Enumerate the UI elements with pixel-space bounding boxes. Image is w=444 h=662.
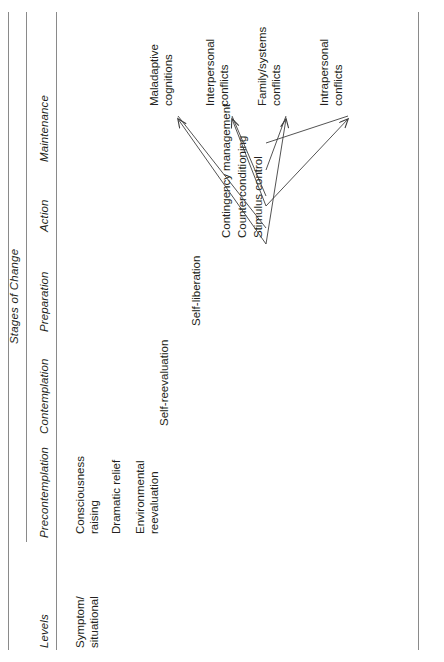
process-self-reevaluation: Self-reevaluation	[158, 340, 172, 426]
process-dramatic-relief: Dramatic relief	[110, 460, 124, 534]
row-label-symptom-situational: Symptom/ situational	[74, 596, 101, 648]
stages-of-change-header: Stages of Change	[8, 249, 22, 344]
arrow-to-intrapersonal-conflicts-a	[266, 119, 348, 206]
column-header-contemplation: Contemplation	[38, 359, 52, 434]
target-interpersonal-conflicts: Interpersonal conflicts	[204, 39, 231, 106]
figure-table: Stages of Change Levels Precontemplation…	[0, 0, 444, 662]
process-stimulus-control: Stimulus control	[252, 156, 266, 238]
rotated-figure-canvas: Stages of Change Levels Precontemplation…	[0, 0, 444, 662]
column-header-action: Action	[38, 199, 52, 232]
target-maladaptive-cognitions: Maladaptive cognitions	[148, 44, 175, 106]
arrow-to-family-systems-conflicts-a	[266, 119, 286, 244]
column-header-precontemplation: Precontemplation	[38, 447, 52, 538]
arrow-to-family-systems-conflicts-b	[266, 116, 286, 170]
column-header-rule	[56, 12, 57, 650]
process-consciousness-raising: Consciousness raising	[74, 456, 101, 534]
target-family-systems-conflicts: Family/systems conflicts	[256, 27, 283, 106]
process-counterconditioning: Counterconditioning	[236, 136, 250, 238]
process-self-liberation: Self-liberation	[190, 256, 204, 326]
process-environmental-reevaluation: Environmental reevaluation	[134, 460, 161, 534]
process-contingency-management: Contingency management	[220, 104, 234, 238]
column-header-levels: Levels	[38, 614, 52, 648]
table-bottom-rule	[418, 12, 419, 650]
target-intrapersonal-conflicts: Intrapersonal conflicts	[318, 39, 345, 106]
arrow-to-intrapersonal-conflicts-b	[266, 116, 348, 143]
column-header-preparation: Preparation	[38, 271, 52, 332]
column-header-maintenance: Maintenance	[38, 95, 52, 162]
stages-of-change-rule	[26, 12, 27, 542]
